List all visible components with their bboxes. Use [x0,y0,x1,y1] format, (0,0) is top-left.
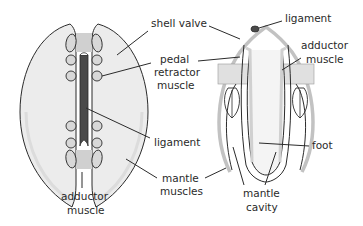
label-pedal-retractor-line2: retractor [154,66,200,79]
label-foot: foot [312,139,333,152]
adductor-top [76,33,92,52]
label-ligament-right: ligament [285,12,331,25]
label-ligament-left: ligament [154,136,200,149]
label-mantle-muscles-line2: muscles [160,185,203,198]
label-mantle-cavity-line2: cavity [246,201,278,214]
label-mantle-muscles-line1: mantle [162,172,199,185]
label-pedal-retractor-line1: pedal [160,53,189,66]
top-view [20,24,157,207]
label-adductor-left-line1: adductor [61,190,108,203]
label-shell-valve: shell valve [151,17,207,30]
pedal-retractor-circle [66,55,76,65]
label-adductor-left-line2: muscle [67,204,105,217]
ligament-bar [80,55,88,146]
adductor-bottom [76,150,92,169]
label-mantle-cavity-line1: mantle [243,187,280,200]
bivalve-diagram: shell valve pedal retractor muscle ligam… [0,0,363,226]
label-adductor-right-line2: muscle [306,53,344,66]
ligament-knob [251,26,259,32]
label-adductor-right-line1: adductor [301,39,348,52]
label-pedal-retractor-line3: muscle [157,79,195,92]
cross-section [198,21,314,185]
